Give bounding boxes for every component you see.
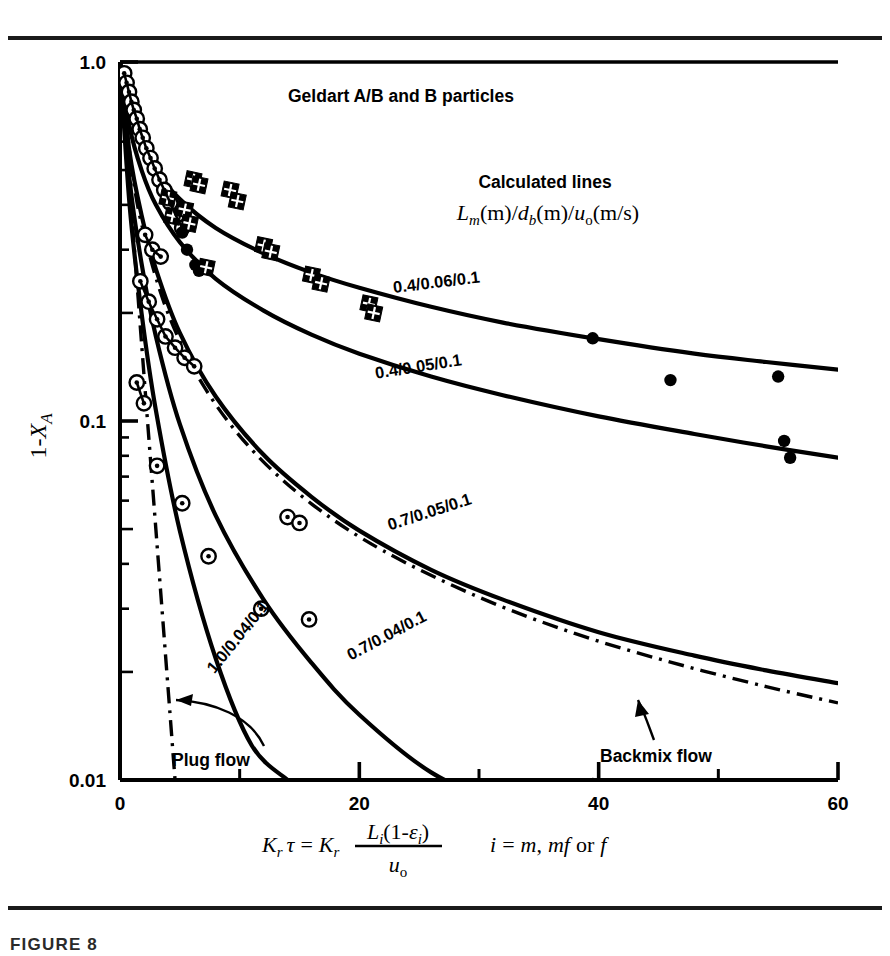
plug-flow-arrowhead <box>176 694 193 706</box>
curve-label: 0.4/0.05/0.1 <box>374 350 463 381</box>
data-marker-open-circle <box>201 549 215 563</box>
reference-lines-group <box>120 62 838 780</box>
figure-page: 1.00.10.01 0204060 0.4/0.06/0.10.4/0.05/… <box>0 0 890 956</box>
curve-label: 0.7/0.04/0.1 <box>344 607 429 664</box>
calculated-curve <box>120 62 838 683</box>
data-marker-crossed-square <box>197 258 215 276</box>
x-axis-index-note: i=m,mforf <box>490 832 609 857</box>
backmix-flow-label: Backmix flow <box>600 746 712 766</box>
data-marker-filled-circle <box>664 374 676 386</box>
chart-axes <box>120 62 838 780</box>
plug-flow-label: Plug flow <box>172 750 250 770</box>
data-marker-open-circle <box>138 228 152 242</box>
backmix-arrowhead <box>635 700 649 717</box>
x-axis-title-left: Krτ=Kr <box>261 832 340 860</box>
data-marker-open-circle <box>175 496 189 510</box>
data-marker-open-circle <box>137 396 151 410</box>
x-tick-label: 40 <box>588 793 609 814</box>
calculated-curve <box>120 62 288 780</box>
data-marker-open-circle <box>292 516 306 530</box>
data-marker-filled-circle <box>586 332 598 344</box>
data-marker-crossed-square <box>312 274 330 292</box>
x-axis-fraction-numerator: Li(1-εi) <box>366 819 429 847</box>
legend-formula: Lm(m)/db(m)/uo(m/s) <box>456 200 639 228</box>
data-marker-crossed-square <box>262 243 280 261</box>
y-axis-tick-labels: 1.00.10.01 <box>69 52 106 791</box>
data-marker-crossed-square <box>180 214 198 232</box>
data-marker-crossed-square <box>190 176 208 194</box>
curve-label: 0.7/0.05/0.1 <box>385 489 473 533</box>
x-tick-label: 0 <box>115 793 126 814</box>
data-marker-filled-circle <box>784 452 796 464</box>
bottom-divider-rule <box>8 906 882 910</box>
data-marker-filled-circle <box>778 435 790 447</box>
x-axis-fraction-denominator: uo <box>389 852 408 880</box>
x-axis-title-group: Krτ=Kr Li(1-εi) uo i=m,mforf <box>261 819 609 880</box>
data-marker-open-circle <box>150 459 164 473</box>
plug-flow-annotation: Plug flow <box>172 694 264 770</box>
curve-label: 1.0/0.04/0.1 <box>203 597 272 676</box>
y-axis-title-group: 1-XA <box>25 413 56 459</box>
chart-plot-area: 1.00.10.01 0204060 0.4/0.06/0.10.4/0.05/… <box>0 40 890 890</box>
backmix-flow-annotation: Backmix flow <box>600 700 712 766</box>
data-marker-filled-circle <box>181 244 193 256</box>
calculated-lines-legend: Calculated lines Lm(m)/db(m)/uo(m/s) <box>456 172 639 228</box>
y-tick-label: 0.1 <box>80 411 107 432</box>
y-axis-title: 1-XA <box>25 413 56 459</box>
data-marker-crossed-square <box>228 192 246 210</box>
data-markers-group <box>117 66 796 627</box>
x-tick-label: 60 <box>827 793 848 814</box>
legend-heading: Calculated lines <box>478 172 612 192</box>
legend-formula-math: Lm(m)/db(m)/uo(m/s) <box>456 200 639 228</box>
data-marker-open-circle <box>302 612 316 626</box>
x-axis-tick-labels: 0204060 <box>115 793 849 814</box>
calculated-curve <box>120 62 838 458</box>
curve-label: 0.4/0.06/0.1 <box>392 268 481 296</box>
data-marker-filled-circle <box>772 370 784 382</box>
conversion-log-chart: 1.00.10.01 0204060 0.4/0.06/0.10.4/0.05/… <box>0 40 890 890</box>
figure-caption: FIGURE 8 <box>10 930 98 952</box>
plug-flow-leader-line <box>176 700 264 746</box>
chart-title: Geldart A/B and B particles <box>288 86 514 106</box>
data-marker-open-circle <box>130 375 144 389</box>
x-tick-label: 20 <box>349 793 370 814</box>
y-tick-label: 0.01 <box>69 770 106 791</box>
reference-line <box>120 62 838 703</box>
curve-labels-group: 0.4/0.06/0.10.4/0.05/0.10.7/0.05/0.10.7/… <box>203 268 481 676</box>
y-tick-label: 1.0 <box>80 52 106 73</box>
data-marker-crossed-square <box>365 304 383 322</box>
